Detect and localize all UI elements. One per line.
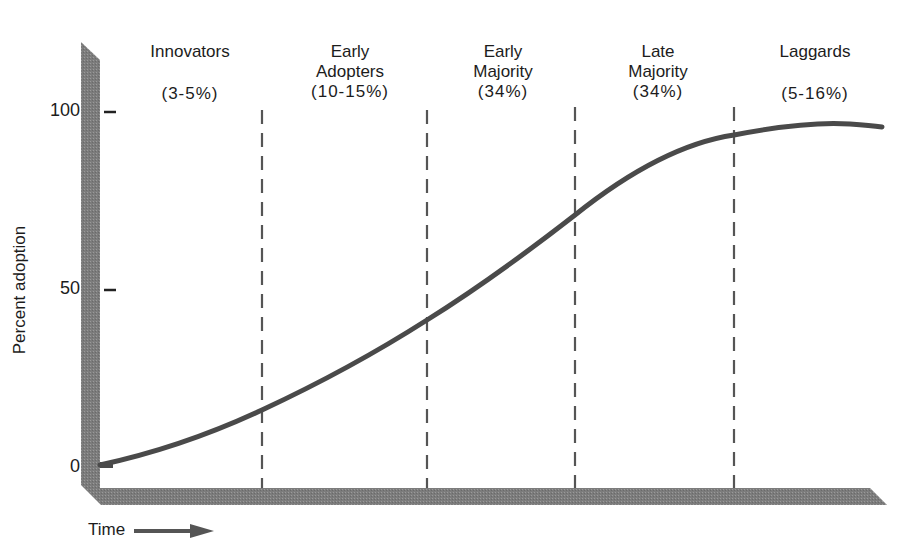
y-axis-label: Percent adoption	[10, 226, 30, 355]
segment-name: Innovators	[150, 42, 229, 62]
x-axis-label: Time	[88, 520, 125, 540]
y-tick-label-100: 100	[20, 100, 80, 121]
y-tick-label-0: 0	[20, 456, 80, 477]
segment-label-early-majority: Early Majority (34%)	[473, 42, 533, 102]
segment-name: Laggards	[780, 42, 851, 62]
segment-label-late-majority: Late Majority (34%)	[628, 42, 688, 102]
time-arrow-head-icon	[190, 524, 214, 538]
category-dividers	[262, 107, 734, 488]
segment-share: (34%)	[628, 82, 688, 102]
y-axis-bar	[81, 42, 100, 488]
x-axis-label-text: Time	[88, 520, 125, 540]
segment-label-laggards: Laggards (5-16%)	[780, 42, 851, 104]
segment-name-line2: Majority	[473, 62, 533, 82]
segment-name-line2: Adopters	[311, 62, 389, 82]
segment-share: (34%)	[473, 82, 533, 102]
segment-share: (10-15%)	[311, 82, 389, 102]
curve-start-stub	[100, 462, 113, 468]
adoption-curve-chart	[0, 0, 898, 560]
x-axis-bar	[84, 488, 887, 505]
segment-name: Early	[473, 42, 533, 62]
segment-name: Late	[628, 42, 688, 62]
segment-label-innovators: Innovators (3-5%)	[150, 42, 229, 104]
segment-label-early-adopters: Early Adopters (10-15%)	[311, 42, 389, 102]
adoption-curve	[100, 123, 882, 465]
segment-name: Early	[311, 42, 389, 62]
segment-name-line2: Majority	[628, 62, 688, 82]
segment-share: (5-16%)	[780, 84, 851, 104]
segment-share: (3-5%)	[150, 84, 229, 104]
